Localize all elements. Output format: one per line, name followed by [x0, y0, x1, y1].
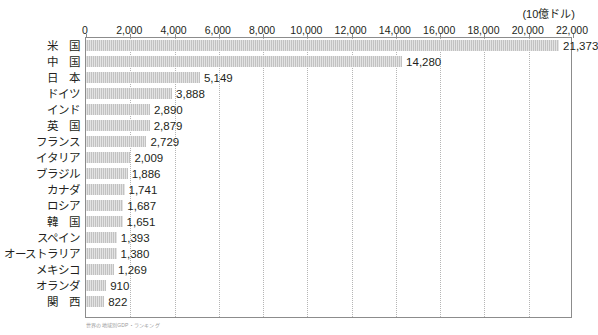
bar-row: ドイツ3,888: [0, 86, 593, 102]
bar-row: スペイン1,393: [0, 230, 593, 246]
category-label: ドイツ: [0, 86, 80, 102]
value-label: 822: [108, 294, 127, 310]
bar: [86, 56, 402, 67]
bar: [86, 264, 114, 275]
value-label: 2,009: [134, 150, 163, 166]
bar-rows: 米 国21,373中 国14,280日 本5,149ドイツ3,888インド2,8…: [0, 37, 593, 318]
x-tick-label: 20,000: [512, 24, 544, 36]
value-label: 14,280: [406, 54, 441, 70]
bar: [86, 136, 146, 147]
x-tick-label: 12,000: [335, 24, 367, 36]
bar-row: 英 国2,879: [0, 118, 593, 134]
value-label: 1,741: [129, 182, 158, 198]
bar: [86, 216, 123, 227]
category-label: メキシコ: [0, 262, 80, 278]
bar-row: オーストラリア1,380: [0, 246, 593, 262]
bar-row: 米 国21,373: [0, 38, 593, 54]
value-label: 910: [110, 278, 129, 294]
bar: [86, 72, 200, 83]
bar-row: 関 西822: [0, 294, 593, 310]
bar-row: 中 国14,280: [0, 54, 593, 70]
category-label: 英 国: [0, 118, 80, 134]
value-label: 1,886: [132, 166, 161, 182]
value-label: 1,651: [127, 214, 156, 230]
bar: [86, 280, 106, 291]
bar: [86, 184, 125, 195]
bar-row: ロシア1,687: [0, 198, 593, 214]
category-label: 関 西: [0, 294, 80, 310]
value-label: 5,149: [204, 70, 233, 86]
bar: [86, 232, 117, 243]
category-label: 日 本: [0, 70, 80, 86]
source-note: 世界の地域別GDP・ランキング: [86, 321, 160, 328]
x-tick-label: 14,000: [379, 24, 411, 36]
bar-row: 日 本5,149: [0, 70, 593, 86]
value-label: 2,729: [150, 134, 179, 150]
bar: [86, 200, 123, 211]
bar: [86, 40, 559, 51]
bar-row: ブラジル1,886: [0, 166, 593, 182]
bar: [86, 88, 172, 99]
category-label: ロシア: [0, 198, 80, 214]
x-tick-label: 22,000: [556, 24, 588, 36]
x-tick-label: 10,000: [290, 24, 322, 36]
category-label: オランダ: [0, 278, 80, 294]
value-label: 3,888: [176, 86, 205, 102]
category-label: 中 国: [0, 54, 80, 70]
category-label: 米 国: [0, 38, 80, 54]
bar: [86, 104, 150, 115]
category-label: イタリア: [0, 150, 80, 166]
bar-row: インド2,890: [0, 102, 593, 118]
bar-row: オランダ910: [0, 278, 593, 294]
bar: [86, 168, 128, 179]
category-label: インド: [0, 102, 80, 118]
category-label: 韓 国: [0, 214, 80, 230]
bar: [86, 152, 130, 163]
bar-row: 韓 国1,651: [0, 214, 593, 230]
value-label: 1,393: [121, 230, 150, 246]
bar: [86, 248, 117, 259]
bar: [86, 120, 150, 131]
x-tick-label: 2,000: [116, 24, 142, 36]
bar-row: カナダ1,741: [0, 182, 593, 198]
x-axis-tick-labels: 02,0004,0006,0008,00010,00012,00014,0001…: [85, 24, 572, 37]
bar-row: フランス2,729: [0, 134, 593, 150]
value-label: 2,890: [154, 102, 183, 118]
x-tick-label: 6,000: [205, 24, 231, 36]
x-tick-label: 0: [82, 24, 88, 36]
value-label: 21,373: [563, 38, 598, 54]
category-label: カナダ: [0, 182, 80, 198]
value-label: 2,879: [154, 118, 183, 134]
category-label: オーストラリア: [0, 246, 80, 262]
value-label: 1,269: [118, 262, 147, 278]
bar-row: メキシコ1,269: [0, 262, 593, 278]
value-label: 1,380: [121, 246, 150, 262]
category-label: フランス: [0, 134, 80, 150]
x-tick-label: 16,000: [423, 24, 455, 36]
category-label: ブラジル: [0, 166, 80, 182]
bar-row: イタリア2,009: [0, 150, 593, 166]
category-label: スペイン: [0, 230, 80, 246]
value-label: 1,687: [127, 198, 156, 214]
bar: [86, 296, 104, 307]
unit-label: (10億ドル): [522, 5, 575, 21]
x-tick-label: 18,000: [467, 24, 499, 36]
x-tick-label: 4,000: [160, 24, 186, 36]
x-tick-label: 8,000: [249, 24, 275, 36]
